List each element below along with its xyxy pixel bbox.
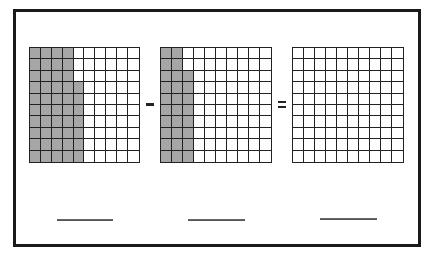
- grid-cell-shaded: [30, 116, 41, 127]
- grid-cell: [315, 59, 326, 70]
- grid-cell: [293, 139, 304, 150]
- grid-cell: [370, 94, 381, 105]
- grid-cell-shaded: [41, 116, 52, 127]
- grid-cell-shaded: [41, 71, 52, 82]
- grid-cell-shaded: [41, 151, 52, 162]
- grid-cell: [106, 128, 117, 139]
- grid-cell: [74, 48, 85, 59]
- grid-cell: [392, 82, 403, 93]
- grid-cell-shaded: [41, 48, 52, 59]
- grid-cell: [348, 71, 359, 82]
- grid-cell: [205, 94, 216, 105]
- grid-cell: [315, 71, 326, 82]
- grid-cell-shaded: [172, 71, 183, 82]
- grid-cell: [238, 139, 249, 150]
- grid-cell: [337, 105, 348, 116]
- grid-cell: [359, 151, 370, 162]
- grid-cell: [238, 94, 249, 105]
- grid-cell: [337, 48, 348, 59]
- grid-cell: [205, 71, 216, 82]
- grid-cell-shaded: [183, 94, 194, 105]
- grid-cell: [216, 139, 227, 150]
- grid-cell: [205, 82, 216, 93]
- grid-cell: [194, 94, 205, 105]
- grid-cell: [128, 48, 139, 59]
- grid-cell: [381, 71, 392, 82]
- grid-cell: [348, 48, 359, 59]
- grid-cell: [315, 139, 326, 150]
- grid-cell: [260, 151, 271, 162]
- grid-cell: [117, 105, 128, 116]
- grid-cell: [106, 94, 117, 105]
- grid-cell: [205, 59, 216, 70]
- grid-cell: [74, 71, 85, 82]
- grid-cell-shaded: [172, 48, 183, 59]
- grid-cell: [84, 48, 95, 59]
- grid-cell: [392, 116, 403, 127]
- grid-cell: [238, 151, 249, 162]
- grid-cell: [304, 59, 315, 70]
- grid-cell: [260, 139, 271, 150]
- grid-cell: [238, 82, 249, 93]
- grid-cell: [381, 139, 392, 150]
- grid-cell-shaded: [74, 139, 85, 150]
- grid-cell: [95, 48, 106, 59]
- grid-cell: [293, 151, 304, 162]
- grid-cell: [381, 116, 392, 127]
- answer-blank-3[interactable]: [320, 218, 377, 220]
- answer-blank-1[interactable]: [57, 219, 113, 221]
- grid-cell: [238, 128, 249, 139]
- grid-cell: [95, 82, 106, 93]
- grid-cell-shaded: [30, 151, 41, 162]
- grid-cell-shaded: [63, 116, 74, 127]
- grid-cell: [194, 139, 205, 150]
- grid-cell: [84, 71, 95, 82]
- grid-cell: [260, 128, 271, 139]
- answer-blank-2[interactable]: [188, 219, 245, 221]
- grid-cell: [106, 59, 117, 70]
- grid-cell: [249, 48, 260, 59]
- grid-cell: [216, 116, 227, 127]
- grid-cell: [95, 105, 106, 116]
- grid-cell: [205, 151, 216, 162]
- grid-cell: [117, 82, 128, 93]
- grid-cell-shaded: [63, 59, 74, 70]
- grid-cell-shaded: [161, 139, 172, 150]
- grid-cell: [260, 59, 271, 70]
- grid-cell: [392, 139, 403, 150]
- grid-cell: [117, 116, 128, 127]
- grid-cell: [304, 151, 315, 162]
- grid-cell-shaded: [41, 139, 52, 150]
- grid-cell: [194, 71, 205, 82]
- grid-cell: [128, 59, 139, 70]
- grid-cell-shaded: [74, 116, 85, 127]
- grid-cell-shaded: [52, 82, 63, 93]
- grid-cell: [84, 59, 95, 70]
- grid-cell: [227, 82, 238, 93]
- grid-cell: [392, 59, 403, 70]
- grid-cell-shaded: [172, 94, 183, 105]
- grid-cell: [84, 139, 95, 150]
- grid-cell-shaded: [172, 151, 183, 162]
- grid-cell: [260, 94, 271, 105]
- grid-cell: [128, 94, 139, 105]
- grid-cell: [315, 151, 326, 162]
- grid-cell-shaded: [183, 71, 194, 82]
- grid-cell: [359, 48, 370, 59]
- grid-cell-shaded: [161, 82, 172, 93]
- grid-cell-shaded: [183, 139, 194, 150]
- grid-cell: [216, 94, 227, 105]
- grid-cell-shaded: [161, 105, 172, 116]
- grid-cell: [326, 151, 337, 162]
- grid-cell: [194, 105, 205, 116]
- grid-cell: [95, 116, 106, 127]
- grid-cell: [304, 128, 315, 139]
- grid-cell: [227, 139, 238, 150]
- grid-cell: [227, 128, 238, 139]
- grid-cell-shaded: [30, 128, 41, 139]
- grid-cell-shaded: [161, 59, 172, 70]
- grid-cell-shaded: [41, 105, 52, 116]
- grid-cell: [117, 94, 128, 105]
- grid-cell: [315, 94, 326, 105]
- grid-cell-shaded: [41, 59, 52, 70]
